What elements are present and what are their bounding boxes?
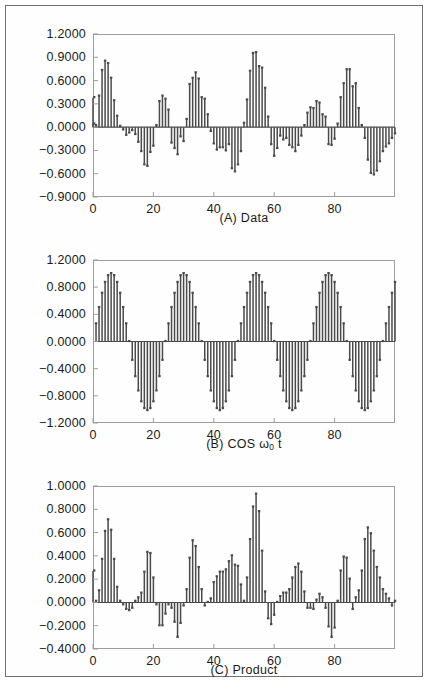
xtick-label: 20 (146, 654, 160, 668)
ytick-label: 0.6000 (6, 526, 86, 540)
omega-subscript: 0 (269, 442, 274, 452)
plot-area-c (93, 486, 395, 649)
ytick-label: −1.2000 (6, 416, 86, 430)
xtick-label: 20 (146, 202, 160, 216)
caption-a: (A) Data (220, 211, 269, 225)
caption-c: (C) Product (210, 663, 277, 677)
ytick-label: 0.0000 (6, 335, 86, 349)
xtick-label: 80 (327, 654, 341, 668)
ytick-label: 0.4000 (6, 307, 86, 321)
ytick-label: −0.9000 (6, 190, 86, 204)
ytick-label: 0.9000 (6, 50, 86, 64)
ytick-label: 0.8000 (6, 502, 86, 516)
ytick-label: 0.0000 (6, 120, 86, 134)
ytick-label: 1.2000 (6, 253, 86, 267)
ytick-label: 0.2000 (6, 572, 86, 586)
xtick-label: 0 (89, 428, 96, 442)
ytick-label: −0.4000 (6, 362, 86, 376)
ytick-label: −0.2000 (6, 619, 86, 633)
xtick-label: 20 (146, 428, 160, 442)
xtick-label: 0 (89, 654, 96, 668)
figure-frame: 1.20000.90000.60000.30000.0000−0.3000−0.… (5, 5, 423, 677)
bars-svg-c (93, 486, 395, 649)
bars-svg-b (93, 260, 395, 423)
ytick-label: −0.6000 (6, 167, 86, 181)
ytick-label: 0.4000 (6, 549, 86, 563)
ytick-label: −0.3000 (6, 143, 86, 157)
xtick-label: 80 (327, 428, 341, 442)
ytick-label: 0.6000 (6, 74, 86, 88)
chart-panel-c: 1.00000.80000.60000.40000.20000.0000−0.2… (6, 458, 424, 684)
plot-area-b (93, 260, 395, 423)
ytick-label: −0.8000 (6, 389, 86, 403)
ytick-label: 1.2000 (6, 27, 86, 41)
chart-panel-a: 1.20000.90000.60000.30000.0000−0.3000−0.… (6, 6, 424, 232)
omega-symbol: ω (259, 437, 269, 451)
xtick-label: 80 (327, 202, 341, 216)
ytick-label: 0.8000 (6, 280, 86, 294)
xtick-label: 0 (89, 202, 96, 216)
ytick-label: 0.3000 (6, 97, 86, 111)
ytick-label: 1.0000 (6, 479, 86, 493)
ytick-label: 0.0000 (6, 595, 86, 609)
caption-b: (B) COS ω0 t (206, 437, 282, 452)
plot-area-a (93, 34, 395, 197)
xtick-label: 60 (267, 202, 281, 216)
bars-svg-a (93, 34, 395, 197)
chart-panel-b: 1.20000.80000.40000.0000−0.4000−0.8000−1… (6, 232, 424, 458)
ytick-label: −0.4000 (6, 642, 86, 656)
